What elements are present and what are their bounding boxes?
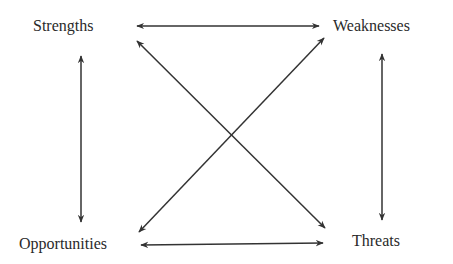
node-opportunities: Opportunities: [19, 236, 107, 252]
arrow-opportunities-threats: [141, 243, 323, 245]
node-strengths: Strengths: [33, 18, 93, 34]
swot-diagram: Strengths Weaknesses Opportunities Threa…: [0, 0, 453, 264]
arrow-weaknesses-opportunities: [139, 38, 324, 232]
arrows-layer: [0, 0, 453, 264]
node-threats: Threats: [352, 233, 400, 249]
node-weaknesses: Weaknesses: [333, 18, 410, 34]
